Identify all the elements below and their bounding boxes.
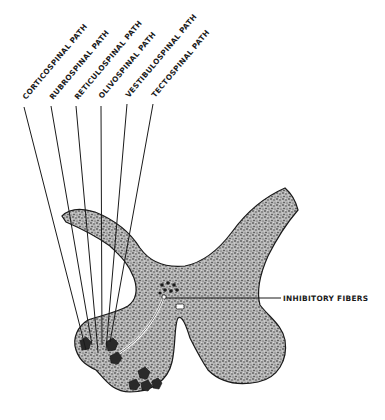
inhibitory-fibers-label: INHIBITORY FIBERS (283, 294, 368, 303)
olivospinal-line (101, 106, 102, 345)
corticospinal-line (24, 107, 86, 350)
tract-labels: CORTICOSPINAL PATH RUBROSPINAL PATH RETI… (21, 12, 212, 101)
gray-matter-shape (62, 188, 298, 392)
central-canal (176, 304, 184, 309)
spinal-cord-diagram: INHIBITORY FIBERS CORTICOSPINAL PATH RUB… (0, 0, 385, 420)
